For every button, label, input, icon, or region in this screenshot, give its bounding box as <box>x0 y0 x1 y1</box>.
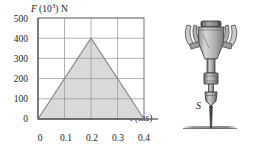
jackhammer-drawing <box>165 0 257 161</box>
ground-line-icon <box>183 126 237 129</box>
mid-shaft-icon <box>209 84 214 92</box>
motor-housing-icon <box>201 21 221 27</box>
chart-plot-area <box>0 0 165 161</box>
hammer-body-icon <box>198 27 224 59</box>
jackhammer-illustration: S <box>165 0 257 161</box>
force-time-chart: F (103) N t (ms) 0 100 200 300 400 500 0… <box>0 0 165 161</box>
chuck-icon <box>205 92 217 106</box>
physics-figure: F (103) N t (ms) 0 100 200 300 400 500 0… <box>0 0 257 161</box>
collar-icon <box>204 73 218 84</box>
chisel-spike-icon <box>210 106 213 128</box>
upper-shaft-icon <box>207 59 215 73</box>
